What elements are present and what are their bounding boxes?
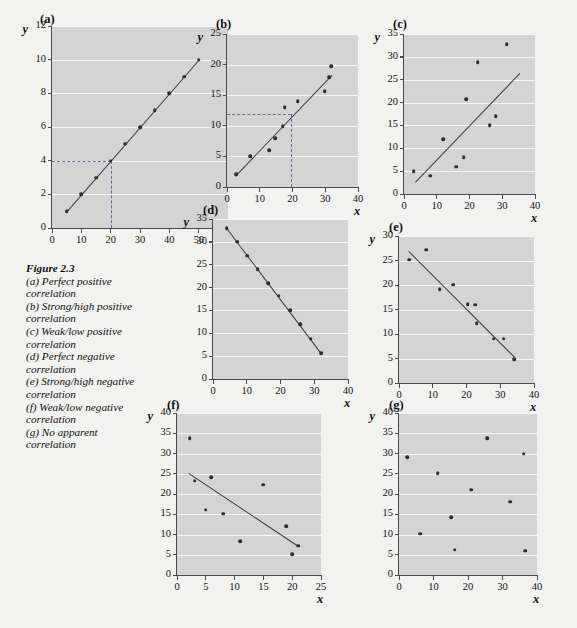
x-tick: [110, 229, 111, 233]
x-tick-label: 20: [456, 581, 480, 592]
data-point: [239, 540, 243, 544]
gridline: [399, 413, 537, 414]
y-tick-label: 0: [371, 568, 393, 579]
x-tick-label: 0: [165, 581, 189, 592]
data-point: [262, 483, 266, 487]
y-tick-label: 0: [376, 187, 398, 198]
y-tick-label: 5: [185, 349, 207, 360]
x-tick: [500, 384, 501, 388]
y-tick: [223, 95, 227, 96]
y-tick: [209, 310, 213, 311]
y-tick-label: 30: [185, 235, 207, 246]
y-tick-label: 15: [149, 507, 171, 518]
plot-area-e: [399, 236, 534, 383]
x-tick: [535, 195, 536, 199]
x-axis-line-f: [176, 575, 322, 576]
panel-letter-d: (d): [203, 203, 218, 218]
y-tick: [173, 473, 177, 474]
y-tick-label: 5: [149, 548, 171, 559]
y-tick-label: 20: [371, 278, 393, 289]
data-point: [466, 302, 470, 306]
gridline: [399, 433, 537, 434]
figure-caption: Figure 2.3 (a) Perfect positivecorrelati…: [26, 262, 166, 451]
y-tick: [400, 102, 404, 103]
y-tick: [400, 171, 404, 172]
x-tick-label: 10: [69, 234, 93, 245]
y-tick-label: 35: [371, 426, 393, 437]
x-tick-label: 10: [248, 193, 272, 204]
data-point: [492, 337, 496, 341]
gridline: [177, 474, 321, 475]
x-axis-label-b: x: [354, 204, 360, 219]
gridline: [177, 413, 321, 414]
y-tick: [400, 56, 404, 57]
x-tick: [177, 576, 178, 580]
data-point: [476, 61, 480, 65]
data-point: [502, 337, 506, 341]
y-tick: [173, 494, 177, 495]
y-tick: [223, 156, 227, 157]
y-axis-label-a: y: [22, 22, 28, 37]
caption-line: correlation: [26, 363, 166, 376]
data-point: [453, 548, 457, 552]
x-tick: [358, 188, 359, 192]
guide-line-vertical: [291, 114, 292, 187]
trendline-a: [67, 60, 200, 212]
chart-panel-b: 0510152025010203040yx: [227, 34, 358, 187]
y-axis-label-d: y: [183, 215, 189, 230]
data-point: [522, 452, 526, 456]
gridline: [399, 494, 537, 495]
x-tick: [348, 380, 349, 384]
y-tick-label: 2: [24, 187, 46, 198]
gridline: [213, 356, 348, 357]
y-tick-label: 10: [376, 141, 398, 152]
data-point: [248, 155, 252, 159]
x-tick-label: 20: [455, 389, 479, 400]
data-point: [221, 512, 225, 516]
y-tick: [209, 264, 213, 265]
x-tick-label: 0: [201, 385, 225, 396]
y-tick: [395, 554, 399, 555]
gridline: [227, 156, 358, 157]
x-tick: [227, 188, 228, 192]
data-point: [288, 309, 292, 313]
guide-line-horizontal: [227, 114, 291, 115]
x-tick: [325, 188, 326, 192]
x-tick-label: 30: [490, 200, 514, 211]
y-tick: [395, 453, 399, 454]
y-axis-label-g: y: [369, 409, 375, 424]
y-tick: [395, 309, 399, 310]
data-point: [523, 549, 527, 553]
data-point: [209, 475, 213, 479]
x-tick: [468, 576, 469, 580]
x-tick-label: 10: [223, 581, 247, 592]
plot-area-f: [177, 413, 321, 575]
gridline: [177, 433, 321, 434]
data-point: [188, 436, 192, 440]
y-tick-label: 5: [199, 149, 221, 160]
x-tick: [321, 576, 322, 580]
plot-area-d: [213, 219, 348, 379]
panel-letter-g: (g): [389, 398, 404, 413]
x-tick: [52, 229, 53, 233]
x-tick: [292, 188, 293, 192]
x-axis-label-g: x: [533, 592, 539, 607]
x-tick-label: 20: [280, 581, 304, 592]
y-axis-label-e: y: [369, 232, 375, 247]
data-point: [407, 258, 411, 262]
plot-area-b: [227, 34, 358, 187]
gridline: [213, 242, 348, 243]
data-point: [494, 114, 498, 118]
x-tick-label: 10: [422, 581, 446, 592]
y-tick-label: 10: [199, 119, 221, 130]
data-point: [319, 352, 323, 356]
x-tick-label: 20: [281, 193, 305, 204]
x-tick: [263, 576, 264, 580]
data-point: [327, 76, 331, 80]
x-tick: [246, 380, 247, 384]
x-tick: [502, 195, 503, 199]
data-point: [94, 176, 98, 180]
plot-area-g: [399, 413, 537, 575]
x-tick: [399, 384, 400, 388]
x-tick-label: 40: [523, 200, 547, 211]
